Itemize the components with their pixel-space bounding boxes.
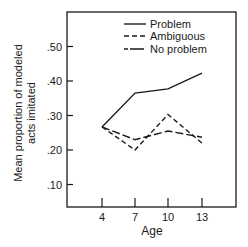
y-tick-label: .30: [47, 110, 62, 122]
x-tick-label: 4: [99, 211, 105, 223]
series-problem: [102, 73, 202, 127]
legend-label: Problem: [150, 18, 191, 30]
legend: ProblemAmbiguousNo problem: [124, 18, 207, 55]
y-axis-ticks: .10.20.30.40.50: [47, 41, 73, 191]
legend-label: Ambiguous: [150, 30, 206, 42]
y-axis-label-line-1: Mean proportion of modeled: [12, 44, 24, 182]
y-tick-label: .50: [47, 41, 62, 53]
x-axis-ticks: 471013: [99, 198, 208, 223]
y-axis-label: Mean proportion of modeled acts imitated: [12, 44, 37, 182]
y-tick-label: .20: [47, 144, 62, 156]
x-tick-label: 7: [132, 211, 138, 223]
x-axis-label: Age: [141, 224, 163, 238]
data-series: [102, 73, 202, 150]
x-tick-label: 10: [162, 211, 174, 223]
x-tick-label: 13: [196, 211, 208, 223]
y-tick-label: .40: [47, 75, 62, 87]
legend-label: No problem: [150, 43, 207, 55]
y-tick-label: .10: [47, 179, 62, 191]
line-chart: .10.20.30.40.50 471013 ProblemAmbiguousN…: [0, 0, 248, 247]
y-axis-label-line-2: acts imitated: [25, 82, 37, 144]
